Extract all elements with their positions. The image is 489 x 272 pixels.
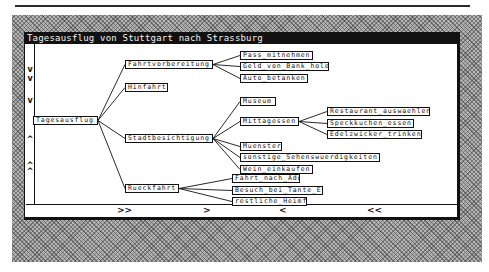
tree-node-fahrtvorbereitung[interactable]: Fahrtvorbereitung xyxy=(125,60,213,69)
tree-node-geld[interactable]: Geld_von_Bank_holen xyxy=(240,62,329,71)
scroll-up-marker-icon[interactable]: ^ xyxy=(26,136,34,144)
tree-node-wein[interactable]: Wein_einkaufen xyxy=(240,165,313,174)
scroll-down-marker-icon[interactable]: v xyxy=(26,66,34,74)
tree-node-tante[interactable]: Besuch_bei_Tante_Emilie xyxy=(232,186,323,195)
tree-node-rueckfahrt[interactable]: Rueckfahrt xyxy=(125,184,179,193)
scroll-up-marker-icon[interactable]: ^ xyxy=(26,168,34,176)
scroll-left-marker-icon[interactable]: < xyxy=(279,205,287,216)
top-divider-line xyxy=(15,5,470,7)
tree-node-speckkuchen[interactable]: Speckkuchen_essen xyxy=(327,119,414,128)
tree-node-restaurant[interactable]: Restaurant_auswaehlen xyxy=(327,107,430,116)
tree-node-mittagessen[interactable]: Mittagessen xyxy=(240,117,299,126)
tree-node-muenster[interactable]: Muenster xyxy=(240,142,282,151)
tree-node-edelzwicker[interactable]: Edelzwicker_trinken xyxy=(327,130,422,139)
scroll-right-marker-icon[interactable]: > xyxy=(203,205,211,216)
tree-node-adorf[interactable]: Fahrt_nach_Adorf xyxy=(232,174,300,183)
tree-node-tagesausflug[interactable]: Tagesausflug xyxy=(33,116,98,125)
scroll-down-marker-icon[interactable]: v xyxy=(26,75,34,83)
tree-node-heimfahrt[interactable]: restliche_Heimfahrt xyxy=(232,197,307,206)
scroll-down-marker-icon[interactable]: v xyxy=(26,97,34,105)
tree-node-hinfahrt[interactable]: Hinfahrt xyxy=(125,83,168,92)
tree-node-sonstige[interactable]: sonstige_Sehenswuerdigkeiten xyxy=(240,153,380,162)
scroll-far-right-marker-icon[interactable]: >> xyxy=(117,205,132,216)
tree-node-auto[interactable]: Auto_betanken xyxy=(240,74,308,83)
scroll-far-left-marker-icon[interactable]: << xyxy=(367,205,382,216)
tree-node-pass[interactable]: Pass_mitnehmen xyxy=(240,51,313,60)
tree-node-museum[interactable]: Museum xyxy=(240,97,276,106)
tree-node-stadtbesichtigung[interactable]: Stadtbesichtigung xyxy=(125,134,213,143)
window-title[interactable]: Tagesausflug von Stuttgart nach Strassbu… xyxy=(25,33,457,44)
